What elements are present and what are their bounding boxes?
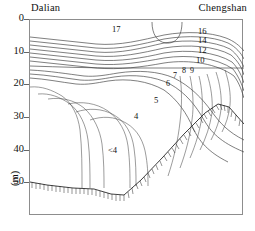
plot-area: 17 16 14 12 10 9 8 7 6 5 4 <4: [29, 19, 243, 215]
contour-label-9: 9: [190, 66, 194, 75]
contour-label-17: 17: [112, 24, 121, 34]
contour-label-7: 7: [173, 71, 177, 80]
depth-tick-mark-30: [24, 117, 29, 118]
depth-tick-mark-50: [24, 182, 29, 183]
contour-section-svg: 17 16 14 12 10 9 8 7 6 5 4 <4: [30, 20, 244, 216]
contour-group-thermocline: [30, 22, 244, 162]
contour-label-core: <4: [108, 145, 118, 155]
depth-tick-label-10: 10: [2, 45, 24, 56]
depth-tick-label-50: 50: [2, 175, 24, 186]
station-label-left: Dalian: [31, 2, 60, 13]
contour-label-4: 4: [134, 111, 139, 121]
contour-label-12: 12: [198, 45, 207, 55]
chart-root: Dalian Chengshan (m): [0, 0, 255, 231]
contour-group-deep: [30, 70, 230, 188]
depth-tick-mark-20: [24, 84, 29, 85]
contour-label-8: 8: [182, 66, 186, 75]
contour-label-6: 6: [166, 79, 170, 88]
contour-label-5: 5: [154, 95, 158, 105]
contour-label-14: 14: [198, 35, 207, 45]
station-label-right: Chengshan: [199, 2, 247, 13]
contour-label-10: 10: [196, 55, 205, 65]
depth-tick-mark-10: [24, 52, 29, 53]
depth-tick-label-40: 40: [2, 143, 24, 154]
depth-tick-mark-40: [24, 150, 29, 151]
depth-tick-mark-0: [24, 19, 29, 20]
depth-tick-label-20: 20: [2, 77, 24, 88]
depth-tick-label-30: 30: [2, 110, 24, 121]
depth-tick-label-0: 0: [2, 12, 24, 23]
